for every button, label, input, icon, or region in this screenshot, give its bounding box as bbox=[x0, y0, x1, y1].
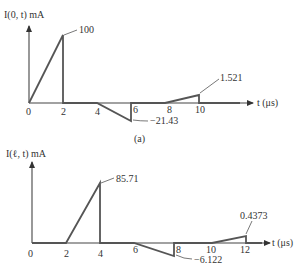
top-x-axis-label: t (μs) bbox=[257, 97, 278, 109]
bottom-pos-leader bbox=[246, 221, 252, 234]
bottom-tick-2: 2 bbox=[64, 248, 69, 259]
bottom-tick-12: 12 bbox=[240, 244, 250, 255]
top-tick-10: 10 bbox=[195, 104, 205, 115]
top-tick-4: 4 bbox=[95, 106, 100, 117]
chart-top: I(0, t) mA t (μs) 0 2 4 6 8 10 100 −21.4… bbox=[4, 9, 278, 145]
bottom-neg-label: −6.122 bbox=[194, 254, 222, 265]
top-neg-label: −21.43 bbox=[150, 115, 178, 126]
bottom-y-axis-label: I(ℓ, t) mA bbox=[6, 148, 47, 160]
top-caption: (a) bbox=[134, 133, 145, 145]
bottom-peak-label: 85.71 bbox=[116, 173, 139, 184]
bottom-pos-label: 0.4373 bbox=[240, 210, 268, 221]
bottom-tick-8: 8 bbox=[176, 244, 181, 255]
top-y-axis-label: I(0, t) mA bbox=[4, 9, 45, 21]
top-pos-leader bbox=[200, 79, 219, 93]
bottom-x-axis-label: t (μs) bbox=[272, 237, 293, 249]
top-tick-0: 0 bbox=[26, 106, 31, 117]
figure: I(0, t) mA t (μs) 0 2 4 6 8 10 100 −21.4… bbox=[0, 0, 300, 267]
top-peak-leader bbox=[64, 30, 77, 35]
bottom-neg-leader bbox=[176, 255, 192, 259]
bottom-tick-4: 4 bbox=[98, 248, 103, 259]
top-tick-6: 6 bbox=[133, 104, 138, 115]
top-pos-label: 1.521 bbox=[220, 72, 243, 83]
bottom-peak-leader bbox=[101, 178, 114, 183]
top-tick-2: 2 bbox=[61, 106, 66, 117]
bottom-waveform bbox=[32, 183, 262, 256]
bottom-tick-0: 0 bbox=[28, 248, 33, 259]
chart-bottom: I(ℓ, t) mA t (μs) 0 2 4 6 8 10 12 85.71 … bbox=[6, 148, 293, 265]
bottom-tick-6: 6 bbox=[133, 244, 138, 255]
top-tick-8: 8 bbox=[167, 104, 172, 115]
top-peak-label: 100 bbox=[79, 24, 94, 35]
top-neg-leader bbox=[133, 120, 148, 121]
